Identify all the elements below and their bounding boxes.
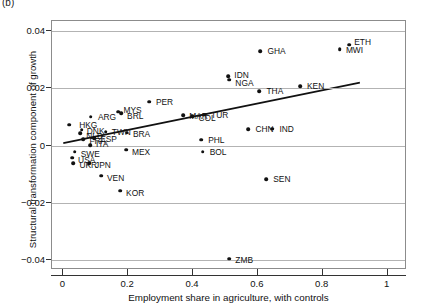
data-point-label: ITA xyxy=(96,140,108,148)
data-point xyxy=(298,84,302,88)
data-point xyxy=(199,138,203,142)
data-point-label: PHL xyxy=(208,136,224,144)
gridline-y xyxy=(52,203,405,204)
data-point xyxy=(202,113,206,117)
scatter-plot-figure: (b) Structural transformation component … xyxy=(0,0,423,308)
data-point xyxy=(73,150,77,154)
data-point xyxy=(99,174,103,178)
data-point-label: TUR xyxy=(211,110,228,118)
data-point-label: BOL xyxy=(210,148,227,156)
data-point xyxy=(347,43,351,47)
data-point-label: SEN xyxy=(273,175,290,183)
data-point xyxy=(182,114,186,118)
x-axis-tick-marks xyxy=(51,269,406,275)
x-tick-mark xyxy=(387,269,388,275)
data-point-label: IND xyxy=(279,125,293,133)
gridline-y xyxy=(52,88,405,89)
data-point xyxy=(258,89,262,93)
data-point xyxy=(264,177,268,181)
data-point xyxy=(89,115,93,119)
data-point xyxy=(119,112,123,116)
data-point-label: GHA xyxy=(267,47,285,55)
x-axis-tick-labels: 00.20.40.60.81 xyxy=(51,278,406,292)
data-point-label: BRA xyxy=(133,129,150,137)
data-point xyxy=(247,127,251,131)
data-point xyxy=(67,123,71,127)
data-point xyxy=(88,143,92,147)
data-point-label: BRL xyxy=(127,112,143,120)
gridline-y xyxy=(52,31,405,32)
x-tick-label: 0.8 xyxy=(315,278,328,289)
data-point-label: PER xyxy=(156,98,173,106)
y-axis-tick-marks xyxy=(0,20,51,269)
data-point xyxy=(191,114,195,118)
x-tick-label: 0.6 xyxy=(250,278,263,289)
x-tick-label: 0.4 xyxy=(185,278,198,289)
data-point xyxy=(72,161,76,165)
data-point-label: THA xyxy=(266,87,283,95)
data-point xyxy=(125,131,129,135)
data-point xyxy=(201,150,205,154)
panel-tag: (b) xyxy=(2,0,14,8)
data-point xyxy=(147,100,151,104)
x-tick-mark xyxy=(192,269,193,275)
data-point-label: ETH xyxy=(354,38,371,46)
data-point xyxy=(271,127,275,131)
data-point-label: KEN xyxy=(307,82,324,90)
x-tick-mark xyxy=(322,269,323,275)
data-point xyxy=(124,148,128,152)
data-point xyxy=(70,156,74,160)
data-point-label: VEN xyxy=(107,173,124,181)
data-point-label: ZMB xyxy=(235,256,253,264)
data-point-label: JPN xyxy=(95,161,111,169)
x-tick-label: 0 xyxy=(60,278,65,289)
x-tick-mark xyxy=(257,269,258,275)
x-tick-mark xyxy=(62,269,63,275)
plot-area: HKGDNKNLDFRAESPSWEITAUSAUKRJPNVENARGTWNM… xyxy=(51,20,406,269)
data-point xyxy=(259,49,263,53)
x-tick-label: 0.2 xyxy=(121,278,134,289)
data-point xyxy=(78,132,82,136)
data-point xyxy=(87,161,91,165)
data-point-label: KOR xyxy=(126,189,144,197)
x-axis-line xyxy=(51,275,406,276)
data-point xyxy=(338,47,342,51)
data-point-label: ARG xyxy=(98,113,116,121)
data-point xyxy=(82,137,86,141)
data-point-label: NGA xyxy=(235,78,253,86)
data-point xyxy=(104,130,108,134)
x-tick-label: 1 xyxy=(384,278,389,289)
x-tick-mark xyxy=(127,269,128,275)
data-point xyxy=(228,257,232,261)
data-point xyxy=(118,189,122,193)
data-point-label: MWI xyxy=(346,46,363,54)
data-point xyxy=(228,78,232,82)
x-axis-title: Employment share in agriculture, with co… xyxy=(51,292,406,303)
data-point-label: MEX xyxy=(132,148,150,156)
